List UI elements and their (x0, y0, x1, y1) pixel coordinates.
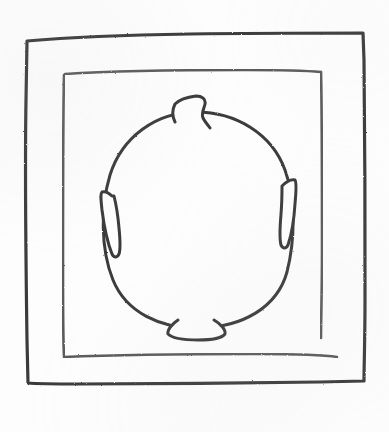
bottom-tab-icon (168, 320, 225, 340)
inner-frame-top (65, 70, 321, 74)
sketch-drawing (0, 0, 389, 432)
inner-frame-right (321, 72, 322, 338)
inner-frame-left (63, 75, 64, 356)
circle-group (103, 112, 293, 328)
sketch-canvas (0, 0, 389, 432)
circle-outline (103, 112, 293, 328)
inner-frame-bottom (64, 354, 337, 357)
